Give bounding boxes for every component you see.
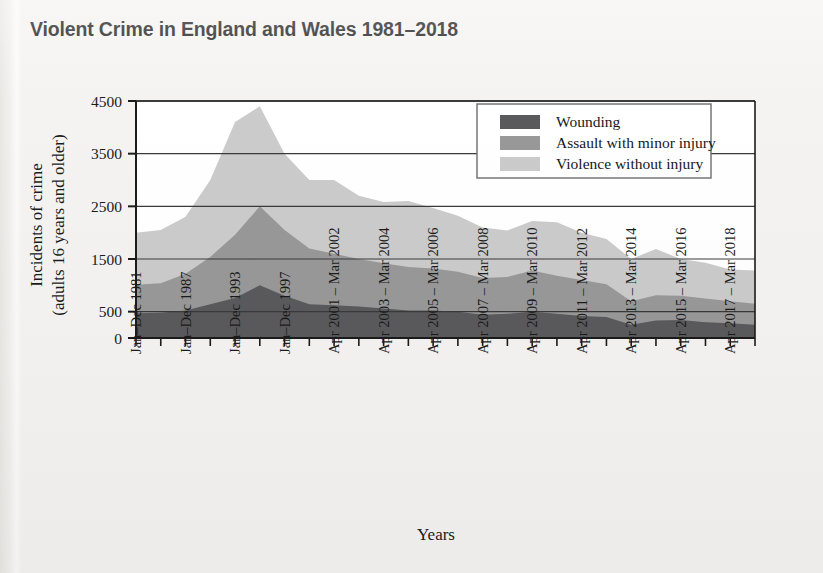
x-axis-tick-label: Jan–Dec 1997 [277,271,293,354]
legend-swatch [500,136,540,150]
legend-label: Wounding [556,113,620,130]
y-axis-tick-label: 3500 [91,145,122,162]
legend-swatch [500,157,540,171]
x-axis-tick-label: Apr 2005 – Mar 2006 [425,228,441,354]
y-axis-title-line1: Incidents of crime [27,163,46,287]
x-axis-tick-label: Apr 2007 – Mar 2008 [475,228,491,354]
figure-page: Violent Crime in England and Wales 1981–… [0,0,823,573]
x-axis-tick-label: Jan–Dec 1993 [227,271,243,354]
y-axis-tick-label: 1500 [91,251,122,268]
x-axis-tick-label: Apr 2015 – Mar 2016 [673,228,689,354]
x-axis-tick-label: Apr 2013 – Mar 2014 [623,227,639,354]
x-axis-tick-label: Apr 2011 – Mar 2012 [574,228,590,354]
y-axis-tick-label: 0 [114,330,122,347]
legend-swatch [500,115,540,129]
chart-container: 05001500250035004500 Jan–Dec 1981Jan–Dec… [0,0,823,573]
x-axis-tick-label: Apr 2017 – Mar 2018 [722,228,738,354]
y-axis-tick-label: 500 [99,303,123,320]
x-axis-title: Years [417,525,455,544]
legend-label: Violence without injury [556,155,703,172]
x-axis-tick-label: Apr 2001 – Mar 2002 [326,228,342,354]
y-axis-title-line2: (adults 16 years and older) [49,134,68,315]
x-axis-tick-label: Apr 2009 – Mar 2010 [524,228,540,354]
chart-legend: WoundingAssault with minor injuryViolenc… [477,104,716,178]
stacked-area-chart: 05001500250035004500 Jan–Dec 1981Jan–Dec… [0,0,823,573]
y-axis-tick-label: 4500 [91,93,122,110]
legend-label: Assault with minor injury [556,134,716,151]
x-axis-tick-label: Jan–Dec 1987 [178,271,194,354]
x-axis-tick-label: Jan–Dec 1981 [128,271,144,354]
y-axis-tick-label: 2500 [91,198,122,215]
x-axis-tick-label: Apr 2003 – Mar 2004 [376,227,392,354]
